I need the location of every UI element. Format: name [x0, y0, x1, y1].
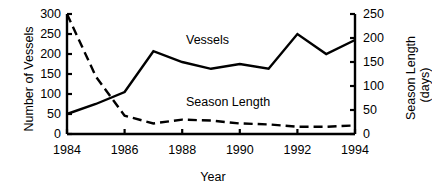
series-group: [67, 14, 355, 127]
axes-group: [67, 14, 355, 134]
series-line-season-length: [67, 14, 355, 127]
series-line-vessels: [67, 34, 355, 114]
